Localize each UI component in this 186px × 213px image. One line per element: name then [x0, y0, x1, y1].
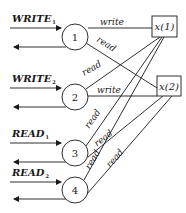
process-node-2: 2	[62, 84, 88, 110]
input-label-3: READ1	[11, 128, 49, 140]
input-label-2: WRITE2	[12, 73, 56, 85]
edge-label-2-x1: read	[80, 59, 103, 78]
register-box-x2: x(2)	[157, 76, 181, 96]
edge-label-1-x1: write	[100, 17, 124, 27]
svg-text:x(1): x(1)	[155, 21, 175, 32]
svg-text:4: 4	[72, 185, 78, 196]
input-label-1: WRITE1	[12, 13, 56, 25]
process-node-4: 4	[62, 177, 88, 203]
process-nodes: 1 2 3 4	[62, 24, 88, 203]
svg-text:3: 3	[72, 148, 78, 159]
process-node-3: 3	[62, 140, 88, 166]
diagram-canvas: WRITE1 WRITE2 READ1 READ2 1 2 3 4 x(1)	[0, 0, 186, 213]
register-boxes: x(1) x(2)	[152, 16, 181, 96]
svg-text:2: 2	[72, 92, 78, 103]
process-node-1: 1	[62, 24, 88, 50]
input-labels: WRITE1 WRITE2 READ1 READ2	[11, 13, 56, 179]
edge-label-2-x2: write	[97, 85, 121, 95]
svg-text:x(2): x(2)	[159, 81, 179, 92]
input-label-4: READ2	[11, 167, 49, 179]
edge-label-4-x2: read	[104, 147, 125, 169]
svg-text:1: 1	[72, 32, 78, 43]
register-box-x1: x(1)	[152, 16, 177, 37]
